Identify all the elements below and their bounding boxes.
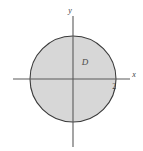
region-label-d: D	[81, 57, 89, 67]
y-axis-label: y	[67, 6, 72, 15]
x-tick-label-2: 2	[112, 82, 116, 91]
disk-region-figure: x y 2 D	[0, 0, 143, 151]
figure-container: x y 2 D	[0, 0, 143, 151]
x-axis-label: x	[131, 70, 136, 79]
